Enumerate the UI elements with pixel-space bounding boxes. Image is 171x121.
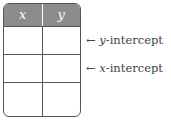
cell xyxy=(43,83,81,117)
cell xyxy=(43,55,81,82)
xy-table: x y xyxy=(3,3,81,117)
cell xyxy=(4,55,43,82)
table-header: x y xyxy=(4,4,80,26)
arrow-left-icon: ← xyxy=(86,33,96,47)
header-y: y xyxy=(43,4,81,26)
table-row xyxy=(4,26,80,54)
header-x: x xyxy=(4,4,43,26)
cell xyxy=(4,27,43,54)
x-intercept-label: ← x-intercept xyxy=(86,61,163,75)
table-row xyxy=(4,82,80,117)
arrow-left-icon: ← xyxy=(86,61,96,75)
cell xyxy=(43,27,81,54)
table-row xyxy=(4,54,80,82)
y-intercept-label: ← y-intercept xyxy=(86,33,163,47)
cell xyxy=(4,83,43,117)
